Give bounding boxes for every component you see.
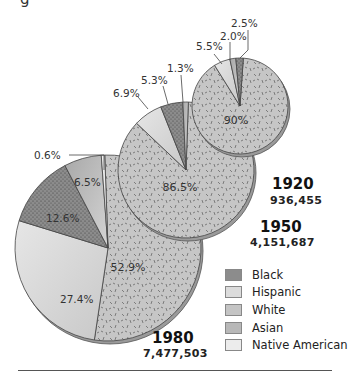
slice-value-label: 5.3% (141, 74, 168, 86)
legend-label: Black (252, 268, 283, 282)
slice-value-label: 1.3% (167, 62, 194, 74)
legend: Black Hispanic White Asian Native Americ… (225, 266, 348, 354)
legend-label: Asian (252, 321, 283, 335)
total-1980-label: 7,477,503 (143, 347, 208, 360)
year-1920-label: 1920 (272, 175, 314, 193)
legend-item-hispanic: Hispanic (225, 284, 348, 302)
slice-value-label: 0.6% (34, 149, 61, 161)
total-1950-label: 4,151,687 (250, 236, 315, 249)
bottom-divider (18, 370, 332, 371)
slice-value-label: 6.5% (74, 176, 101, 188)
slice-value-label: 5.5% (196, 40, 223, 52)
slice-value-label: 86.5% (163, 181, 198, 194)
white-swatch-icon (225, 304, 242, 316)
asian-swatch-icon (225, 322, 242, 334)
slice-value-label: 27.4% (60, 293, 93, 305)
legend-label: Native American (252, 338, 348, 352)
native-american-swatch-icon (225, 339, 242, 351)
slice-value-label: 2.5% (231, 17, 258, 29)
slice-value-label: 6.9% (113, 87, 140, 99)
legend-label: Hispanic (252, 285, 301, 299)
legend-item-white: White (225, 301, 348, 319)
slice-value-label: 2.0% (220, 30, 247, 42)
hispanic-swatch-icon (225, 286, 242, 298)
slice-value-label: 52.9% (111, 261, 146, 274)
black-swatch-icon (225, 269, 242, 281)
legend-item-black: Black (225, 266, 348, 284)
pie-1920: 90%5.5%2.0%2.5% (192, 17, 290, 157)
year-1980-label: 1980 (152, 329, 194, 347)
legend-item-native-american: Native American (225, 336, 348, 354)
legend-item-asian: Asian (225, 319, 348, 337)
slice-value-label: 90% (224, 114, 248, 127)
legend-label: White (252, 303, 285, 317)
slice-value-label: 12.6% (46, 212, 79, 224)
total-1920-label: 936,455 (270, 194, 322, 207)
year-1950-label: 1950 (260, 218, 302, 236)
